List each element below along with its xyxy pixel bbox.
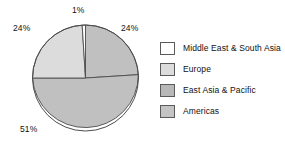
legend-item-label: East Asia & Pacific — [183, 86, 256, 95]
legend-item-europe[interactable]: Europe — [160, 59, 282, 80]
legend-swatch-icon — [160, 84, 175, 97]
pie-chart-plot-area: 1% 24% 51% 24% — [0, 0, 155, 151]
pie-slice-east-asia-pacific[interactable] — [33, 75, 139, 128]
legend-item-east-asia-pacific[interactable]: East Asia & Pacific — [160, 80, 282, 101]
data-label-east-asia-pacific: 51% — [20, 125, 37, 134]
legend-item-label: Americas — [183, 107, 219, 116]
chart-legend: Middle East & South Asia Europe East Asi… — [160, 38, 282, 122]
legend-item-label: Middle East & South Asia — [183, 44, 281, 53]
pie-slice-europe[interactable] — [33, 25, 86, 78]
pie-chart-figure: 1% 24% 51% 24% Middle East & South Asia … — [0, 0, 285, 151]
legend-swatch-icon — [160, 63, 175, 76]
data-label-middle-east-south-asia: 1% — [72, 6, 85, 15]
data-label-americas: 24% — [121, 24, 138, 33]
data-label-europe: 24% — [13, 24, 30, 33]
legend-swatch-icon — [160, 42, 175, 55]
legend-item-label: Europe — [183, 65, 211, 74]
legend-item-americas[interactable]: Americas — [160, 101, 282, 122]
legend-swatch-icon — [160, 105, 175, 118]
legend-item-middle-east-south-asia[interactable]: Middle East & South Asia — [160, 38, 282, 59]
